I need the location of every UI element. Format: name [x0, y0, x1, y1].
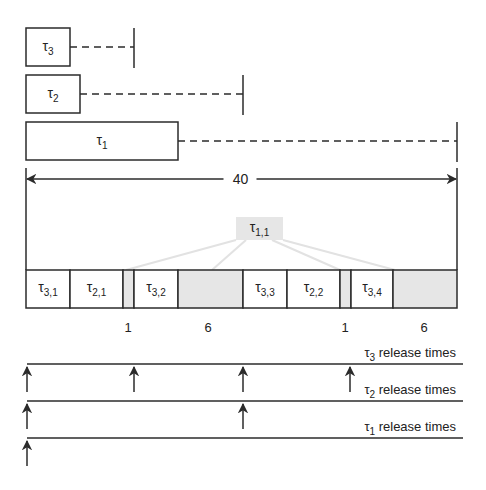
release-times: τ3 release timesτ2 release timesτ1 relea…	[27, 345, 463, 466]
split-job-connectors	[126, 240, 395, 270]
release-row-task-1: τ1 release times	[27, 419, 463, 466]
idle-slot	[340, 270, 351, 308]
task-periods: τ3τ2τ1	[26, 28, 457, 162]
job-slot: τ2,1	[70, 270, 123, 308]
job-slot: τ3,3	[243, 270, 287, 308]
gap-duration-label: 6	[204, 320, 211, 335]
release-row-label: τ2 release times	[364, 382, 456, 400]
idle-slot	[123, 270, 134, 308]
release-row-label: τ3 release times	[364, 345, 456, 363]
period-task-3: τ3	[26, 28, 134, 68]
period-task-1: τ1	[26, 122, 457, 162]
period-task-2: τ2	[26, 75, 243, 115]
gap-duration-label: 1	[124, 320, 131, 335]
gap-duration-label: 6	[420, 320, 427, 335]
hyperperiod-label: 40	[233, 171, 249, 187]
job-slot: τ3,2	[134, 270, 178, 308]
connector-line	[283, 240, 395, 270]
idle-slot	[178, 270, 243, 308]
gap-duration-label: 1	[341, 320, 348, 335]
job-slot: τ3,1	[26, 270, 70, 308]
idle-slot	[393, 270, 457, 308]
job-slot: τ2,2	[287, 270, 340, 308]
idle-block	[178, 270, 243, 308]
idle-gap-labels: 1616	[124, 320, 427, 335]
release-row-label: τ1 release times	[364, 419, 456, 437]
connector-line	[126, 240, 236, 270]
connector-line	[272, 240, 340, 270]
schedule-timeline: τ3,1τ2,1τ3,2τ3,3τ2,2τ3,4	[26, 270, 457, 308]
idle-block	[340, 270, 351, 308]
split-job-box: τ1,1	[236, 217, 283, 240]
idle-block	[393, 270, 457, 308]
job-slot: τ3,4	[351, 270, 393, 308]
idle-block	[123, 270, 134, 308]
schedule-diagram: τ3τ2τ1 40 τ1,1 τ3,1τ2,1τ3,2τ3,3τ2,2τ3,4 …	[0, 0, 486, 490]
